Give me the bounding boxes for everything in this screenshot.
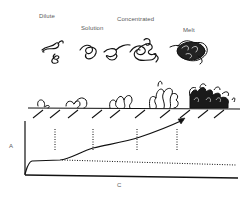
polymer-regime-diagram xyxy=(0,0,251,197)
coil-melt xyxy=(170,41,207,64)
adsorption-curve xyxy=(25,120,183,174)
adsorbed-dense-layer xyxy=(189,84,234,108)
surface-hatching xyxy=(33,110,224,118)
adsorbed-chains xyxy=(38,81,179,108)
x-axis xyxy=(25,175,238,178)
curve-arrowhead xyxy=(178,118,185,124)
regime-boundaries xyxy=(55,129,177,151)
coil-concentrated xyxy=(130,39,158,62)
plateau-extension xyxy=(62,160,236,165)
coil-dilute xyxy=(42,41,63,63)
coil-solution xyxy=(80,45,130,60)
